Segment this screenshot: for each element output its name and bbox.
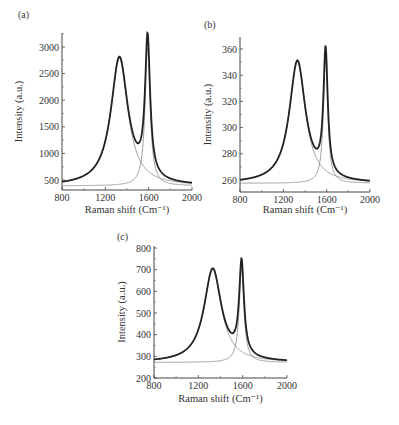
x-axis-title: Raman shift (Cm⁻¹)	[178, 393, 263, 405]
y-tick-label: 2000	[39, 95, 59, 106]
y-tick-label: 1000	[39, 148, 59, 159]
d-band-fit-line	[62, 58, 192, 183]
d-band-fit-line	[154, 269, 287, 360]
x-axis-title: Raman shift (Cm⁻¹)	[85, 204, 170, 216]
y-tick-label: 320	[222, 96, 237, 107]
x-tick-label: 800	[55, 192, 70, 203]
measured-spectrum-line	[240, 46, 370, 180]
y-tick-label: 600	[136, 286, 151, 297]
x-tick-label: 1200	[188, 380, 208, 391]
chart-panel-b: (b)260280300320340360800120016002000Rama…	[202, 19, 380, 216]
y-tick-label: 2500	[39, 68, 59, 79]
y-tick-label: 500	[44, 175, 59, 186]
y-tick-label: 800	[136, 243, 151, 254]
y-tick-label: 500	[136, 308, 151, 319]
y-tick-label: 300	[136, 351, 151, 362]
x-tick-label: 2000	[360, 194, 380, 205]
x-tick-label: 1200	[95, 192, 115, 203]
y-tick-label: 300	[222, 122, 237, 133]
g-band-fit-line	[154, 270, 287, 363]
y-tick-label: 360	[222, 44, 237, 55]
raman-spectra-figure: (a)5001000150020002500300080012001600200…	[0, 0, 399, 425]
panel-label: (a)	[18, 9, 29, 21]
chart-panel-c: (c)200300400500600700800800120016002000R…	[116, 231, 297, 405]
panel-label: (b)	[204, 19, 216, 31]
chart-panel-a: (a)5001000150020002500300080012001600200…	[13, 9, 202, 216]
x-tick-label: 2000	[277, 380, 297, 391]
g-band-fit-line	[240, 60, 370, 183]
y-tick-label: 280	[222, 148, 237, 159]
y-tick-label: 400	[136, 329, 151, 340]
y-axis-title: Intensity (a.u.)	[202, 83, 214, 145]
x-axis-title: Raman shift (Cm⁻¹)	[263, 204, 348, 216]
y-axis-title: Intensity (a.u.)	[116, 281, 128, 343]
y-tick-label: 3000	[39, 42, 59, 53]
d-band-fit-line	[240, 62, 370, 182]
measured-spectrum-line	[154, 259, 287, 361]
x-tick-label: 800	[233, 194, 248, 205]
y-tick-label: 260	[222, 175, 237, 186]
x-tick-label: 1600	[139, 192, 159, 203]
x-tick-label: 2000	[182, 192, 202, 203]
x-tick-label: 1600	[233, 380, 253, 391]
y-tick-label: 1500	[39, 121, 59, 132]
y-tick-label: 700	[136, 264, 151, 275]
measured-spectrum-line	[62, 33, 192, 183]
x-tick-label: 800	[147, 380, 162, 391]
y-tick-label: 340	[222, 70, 237, 81]
g-band-fit-line	[62, 48, 192, 185]
y-axis-title: Intensity (a.u.)	[13, 80, 25, 142]
panel-label: (c)	[117, 231, 128, 243]
